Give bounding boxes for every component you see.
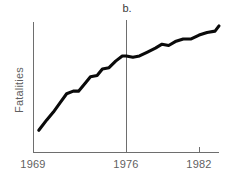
x-tick-label-1969: 1969 [20,158,45,170]
chart-figure: Fatalities b. 1969 1976 1982 [0,0,229,178]
panel-label: b. [122,2,131,14]
fatalities-line-chart: Fatalities b. 1969 1976 1982 [0,0,229,178]
x-tick-label-1982: 1982 [186,158,211,170]
fatalities-data-line [39,26,219,130]
y-axis-label: Fatalities [13,67,25,113]
x-tick-label-1976: 1976 [113,158,138,170]
